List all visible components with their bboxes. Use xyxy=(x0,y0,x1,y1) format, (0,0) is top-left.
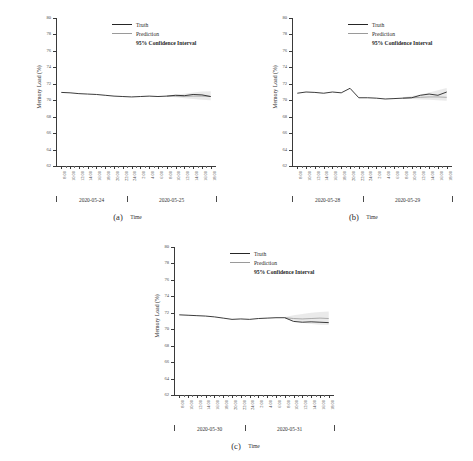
x-tick xyxy=(105,166,106,169)
x-tick-minor xyxy=(324,395,325,397)
x-tick-label: 18:00 xyxy=(107,171,111,181)
y-tick xyxy=(53,18,56,19)
x-tick-label: 14:00 xyxy=(207,400,211,410)
y-tick xyxy=(53,100,56,101)
x-tick xyxy=(329,395,330,398)
y-tick xyxy=(289,100,292,101)
y-tick-label: 68 xyxy=(282,115,287,120)
series-canvas-a xyxy=(56,18,216,166)
x-tick xyxy=(320,395,321,398)
date-separator xyxy=(174,425,175,431)
x-tick xyxy=(297,166,298,169)
x-tick-minor xyxy=(236,395,237,397)
x-tick xyxy=(385,166,386,169)
y-tick xyxy=(53,34,56,35)
x-tick-label: 10:00 xyxy=(190,400,194,410)
y-tick xyxy=(53,166,56,167)
subplot-a: Truth Prediction 95% Confidence Interval… xyxy=(0,2,236,230)
x-tick-label: 10:00 xyxy=(308,171,312,181)
plot-area-b: Memory Load (%) Time 6264666870727476788… xyxy=(292,18,452,166)
x-tick-label: 16:00 xyxy=(216,400,220,410)
x-tick xyxy=(302,395,303,398)
x-tick xyxy=(394,166,395,169)
x-tick-minor xyxy=(189,166,190,168)
x-tick-minor xyxy=(289,395,290,397)
x-tick-minor xyxy=(192,395,193,397)
x-tick xyxy=(211,166,212,169)
x-tick xyxy=(223,395,224,398)
y-tick-label: 74 xyxy=(282,65,287,70)
x-tick xyxy=(79,166,80,169)
x-tick xyxy=(267,395,268,398)
y-tick-label: 62 xyxy=(46,164,51,169)
x-tick-minor xyxy=(198,166,199,168)
x-tick xyxy=(412,166,413,169)
x-tick-minor xyxy=(201,395,202,397)
date-separator xyxy=(292,196,293,202)
y-tick xyxy=(53,150,56,151)
y-tick-label: 78 xyxy=(46,32,51,37)
x-tick-label: 2:00 xyxy=(142,171,146,179)
x-tick xyxy=(140,166,141,169)
y-axis-title-c: Memory Load (%) xyxy=(154,271,160,361)
x-tick-minor xyxy=(228,395,229,397)
x-tick-minor xyxy=(162,166,163,168)
date-separator xyxy=(127,196,128,202)
y-tick xyxy=(171,395,174,396)
x-tick-minor xyxy=(263,395,264,397)
y-tick-label: 64 xyxy=(282,148,287,153)
y-tick-label: 62 xyxy=(164,393,169,398)
y-tick xyxy=(171,280,174,281)
y-tick-label: 78 xyxy=(282,32,287,37)
y-tick xyxy=(53,117,56,118)
x-tick-label: 18:00 xyxy=(449,171,453,181)
x-tick xyxy=(214,395,215,398)
x-tick xyxy=(376,166,377,169)
y-tick-label: 74 xyxy=(46,65,51,70)
x-tick xyxy=(70,166,71,169)
series-canvas-c xyxy=(174,247,334,395)
y-tick-label: 74 xyxy=(164,294,169,299)
x-tick xyxy=(202,166,203,169)
date-group-label: 2020-05-25 xyxy=(159,198,184,203)
y-tick-label: 64 xyxy=(46,148,51,153)
x-tick-label: 16:00 xyxy=(440,171,444,181)
x-tick xyxy=(359,166,360,169)
x-tick-label: 24:00 xyxy=(133,171,137,181)
x-tick xyxy=(241,395,242,398)
date-separator xyxy=(56,196,57,202)
x-tick xyxy=(167,166,168,169)
x-tick-label: 16:00 xyxy=(334,171,338,181)
x-tick-label: 12:00 xyxy=(304,400,308,410)
y-tick xyxy=(289,166,292,167)
date-separator xyxy=(363,196,364,202)
x-tick-label: 20:00 xyxy=(352,171,356,181)
x-tick-minor xyxy=(310,166,311,168)
date-separator xyxy=(216,196,217,202)
plot-area-c: Memory Load (%) Time 6264666870727476788… xyxy=(174,247,334,395)
x-tick xyxy=(306,166,307,169)
x-tick-minor xyxy=(110,166,111,168)
y-tick-label: 68 xyxy=(46,115,51,120)
date-separator xyxy=(245,425,246,431)
x-tick xyxy=(188,395,189,398)
x-tick-minor xyxy=(210,395,211,397)
x-tick-label: 16:00 xyxy=(98,171,102,181)
subplot-b: Truth Prediction 95% Confidence Interval… xyxy=(236,2,472,230)
y-tick-label: 72 xyxy=(46,82,51,87)
y-tick xyxy=(53,84,56,85)
x-tick-minor xyxy=(74,166,75,168)
x-tick-label: 14:00 xyxy=(325,171,329,181)
x-tick-label: 6:00 xyxy=(160,171,164,179)
x-tick xyxy=(114,166,115,169)
x-tick-minor xyxy=(328,166,329,168)
x-tick-minor xyxy=(298,395,299,397)
x-tick-label: 10:00 xyxy=(413,171,417,181)
x-tick xyxy=(123,166,124,169)
x-tick xyxy=(176,166,177,169)
y-tick-label: 76 xyxy=(282,49,287,54)
y-tick xyxy=(171,362,174,363)
y-tick xyxy=(171,346,174,347)
x-tick-minor xyxy=(434,166,435,168)
x-tick xyxy=(311,395,312,398)
